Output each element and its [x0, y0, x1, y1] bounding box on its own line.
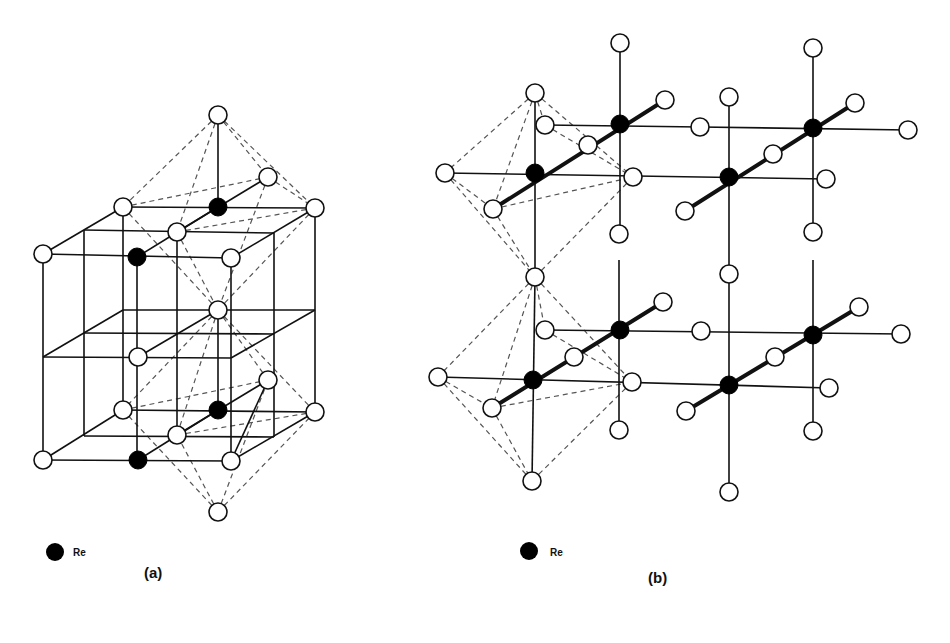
oxygen-atom: [34, 451, 52, 469]
dashed-edge: [218, 310, 268, 380]
oxygen-atom: [526, 84, 544, 102]
panel-b-thick-bonds: [492, 100, 859, 411]
oxygen-atom: [34, 245, 52, 263]
thick-bond: [493, 100, 665, 209]
oxygen-atom: [484, 200, 502, 218]
oxygen-atom: [624, 168, 642, 186]
oxygen-atom: [846, 94, 864, 112]
oxygen-atom: [536, 116, 554, 134]
dashed-edge: [218, 115, 268, 177]
panel-a-lattice-lines: [43, 115, 315, 461]
rhenium-atom: [611, 321, 629, 339]
dashed-edge: [218, 310, 315, 412]
lattice-line: [231, 380, 268, 461]
oxygen-atom: [536, 321, 554, 339]
oxygen-atom: [677, 402, 695, 420]
rhenium-atom: [720, 168, 738, 186]
panel-b-oxygen-atoms: [429, 34, 917, 501]
oxygen-atom: [222, 452, 240, 470]
oxygen-atom: [611, 34, 629, 52]
oxygen-atom: [817, 170, 835, 188]
rhenium-atom: [129, 451, 147, 469]
oxygen-atom: [523, 472, 541, 490]
dashed-edge: [123, 380, 268, 410]
oxygen-atom: [168, 426, 186, 444]
oxygen-atom: [565, 348, 583, 366]
lattice-line: [43, 410, 123, 460]
oxygen-atom: [483, 399, 501, 417]
oxygen-atom: [168, 223, 186, 241]
oxygen-atom: [691, 118, 709, 136]
oxygen-atom: [610, 225, 628, 243]
dashed-edge: [218, 115, 315, 208]
oxygen-atom: [623, 373, 641, 391]
rhenium-atom: [128, 248, 146, 266]
oxygen-atom: [804, 223, 822, 241]
oxygen-atom: [720, 265, 738, 283]
oxygen-atom: [820, 379, 838, 397]
oxygen-atom: [129, 348, 147, 366]
rhenium-atom: [524, 371, 542, 389]
oxygen-atom: [899, 121, 917, 139]
panel-a-perovskite-cell: Re (a): [34, 106, 324, 581]
oxygen-atom: [209, 301, 227, 319]
dashed-edge: [492, 408, 532, 481]
panel-a-oxygen-atoms: [34, 106, 324, 521]
dashed-edge: [177, 115, 218, 232]
oxygen-atom: [610, 421, 628, 439]
oxygen-atom: [306, 199, 324, 217]
oxygen-atom: [114, 401, 132, 419]
lattice-line: [545, 330, 901, 334]
rhenium-atom: [611, 115, 629, 133]
rhenium-atom: [209, 401, 227, 419]
oxygen-atom: [209, 503, 227, 521]
oxygen-atom: [526, 268, 544, 286]
oxygen-atom: [114, 198, 132, 216]
dashed-edge: [123, 115, 218, 207]
dashed-edge: [218, 177, 268, 310]
rhenium-atom: [209, 198, 227, 216]
crystal-structure-figure: Re (a) Re (b): [0, 0, 950, 643]
re-legend-marker: [46, 543, 64, 561]
panel-a-label: (a): [144, 564, 162, 581]
oxygen-atom: [209, 106, 227, 124]
oxygen-atom: [850, 298, 868, 316]
oxygen-atom: [656, 91, 674, 109]
oxygen-atom: [766, 348, 784, 366]
oxygen-atom: [654, 293, 672, 311]
oxygen-atom: [429, 368, 447, 386]
oxygen-atom: [804, 39, 822, 57]
oxygen-atom: [764, 145, 782, 163]
dashed-edge: [123, 177, 268, 207]
oxygen-atom: [720, 88, 738, 106]
dashed-edge: [177, 435, 218, 512]
panel-b-label: (b): [648, 569, 667, 586]
dashed-edge: [438, 277, 535, 377]
oxygen-atom: [804, 422, 822, 440]
dashed-edge: [445, 93, 535, 173]
rhenium-atom: [720, 376, 738, 394]
oxygen-atom: [259, 168, 277, 186]
dashed-edge: [493, 177, 633, 209]
panel-a-legend: Re: [46, 543, 86, 561]
oxygen-atom: [892, 325, 910, 343]
panel-b-layered-structure: Re (b): [429, 34, 917, 586]
dashed-edge: [218, 380, 268, 512]
re-legend-label: Re: [73, 547, 86, 558]
dashed-edge: [493, 209, 535, 277]
oxygen-atom: [579, 136, 597, 154]
re-legend-marker: [520, 542, 538, 560]
rhenium-atom: [526, 164, 544, 182]
re-legend-label: Re: [550, 547, 563, 558]
oxygen-atom: [259, 371, 277, 389]
panel-b-lattice-lines: [438, 43, 908, 492]
dashed-edge: [493, 93, 535, 209]
rhenium-atom: [804, 119, 822, 137]
oxygen-atom: [436, 164, 454, 182]
oxygen-atom: [692, 322, 710, 340]
dashed-edge: [535, 93, 633, 177]
oxygen-atom: [306, 403, 324, 421]
rhenium-atom: [804, 326, 822, 344]
oxygen-atom: [720, 483, 738, 501]
oxygen-atom: [222, 249, 240, 267]
